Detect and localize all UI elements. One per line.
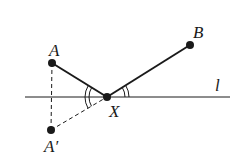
label-x: X xyxy=(108,102,120,121)
point-x xyxy=(103,93,111,101)
label-line-l: l xyxy=(215,76,220,95)
segment-x-b xyxy=(107,45,190,97)
dashed-segment-a-prime-x xyxy=(51,97,107,130)
segment-a-x xyxy=(52,63,107,97)
label-a-prime: A′ xyxy=(43,137,58,156)
point-a-prime xyxy=(47,126,55,134)
point-a xyxy=(48,59,56,67)
label-b: B xyxy=(193,23,204,42)
label-a: A xyxy=(48,41,60,60)
point-b xyxy=(186,41,194,49)
reflection-diagram: A B X A′ l xyxy=(0,0,246,165)
